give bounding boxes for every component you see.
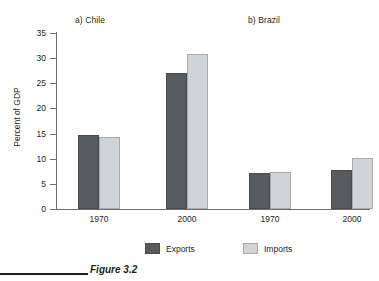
bar-chile-1970-exports [78, 135, 99, 209]
bar-brazil-2000-exports [331, 170, 352, 209]
y-tick-label: 0 [6, 204, 46, 214]
x-axis-line [56, 209, 370, 210]
y-tick-mark [50, 108, 56, 109]
bar-chile-1970-imports [99, 137, 120, 209]
panel-title-brazil: b) Brazil [248, 15, 280, 25]
y-tick-mark [50, 134, 56, 135]
panel-title-chile: a) Chile [75, 15, 105, 25]
legend-item-exports: Exports [145, 243, 195, 254]
x-tick-label: 2000 [157, 214, 217, 224]
caption-rule [0, 273, 88, 275]
y-axis-title: Percent of GDP [12, 62, 22, 172]
bar-brazil-1970-exports [249, 173, 270, 209]
plot-area [57, 33, 370, 209]
bar-chile-2000-exports [166, 73, 187, 209]
legend-label-imports: Imports [264, 244, 292, 254]
y-tick-label: 35 [6, 28, 46, 38]
bar-brazil-1970-imports [270, 172, 291, 209]
y-tick-mark [50, 184, 56, 185]
bar-brazil-2000-imports [352, 158, 373, 209]
y-tick-mark [50, 159, 56, 160]
y-tick-mark [50, 83, 56, 84]
x-tick-label: 2000 [322, 214, 379, 224]
y-tick-label: 5 [6, 178, 46, 188]
chart-legend: Exports Imports [0, 243, 379, 259]
y-tick-mark [50, 58, 56, 59]
y-tick-mark [50, 33, 56, 34]
legend-item-imports: Imports [243, 243, 292, 254]
y-tick-mark [50, 209, 56, 210]
legend-swatch-imports-icon [243, 243, 258, 254]
figure-caption: Figure 3.2 [90, 264, 137, 275]
bar-chile-2000-imports [187, 54, 208, 209]
legend-label-exports: Exports [166, 244, 195, 254]
x-tick-label: 1970 [240, 214, 300, 224]
legend-swatch-exports-icon [145, 243, 160, 254]
x-tick-label: 1970 [69, 214, 129, 224]
figure-chart: a) Chile b) Brazil 05101520253035 Percen… [0, 0, 379, 281]
